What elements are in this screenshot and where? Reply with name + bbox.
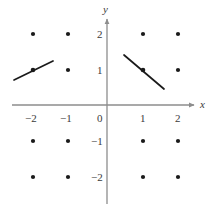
slope-segment-left-point xyxy=(31,68,36,73)
y-axis-label: y xyxy=(103,4,108,15)
lattice-dot xyxy=(176,68,180,72)
lattice-dot xyxy=(66,68,70,72)
x-axis-label: x xyxy=(200,99,205,110)
lattice-dot xyxy=(31,139,35,143)
lattice-dot xyxy=(31,175,35,179)
y-tick-label-neg1: −1 xyxy=(91,136,103,147)
lattice-dot xyxy=(66,175,70,179)
lattice-dot xyxy=(31,32,35,36)
x-tick-label-neg1: −1 xyxy=(60,113,72,124)
x-tick-label-zero: 0 xyxy=(97,113,103,124)
slope-segment-right-point xyxy=(141,68,146,73)
slope-field-figure: −2 −1 0 1 2 2 1 −1 −2 x y xyxy=(0,0,216,211)
x-tick-label-pos2: 2 xyxy=(175,113,181,124)
lattice-dot xyxy=(141,32,145,36)
lattice-dot xyxy=(66,139,70,143)
lattice-dot xyxy=(141,139,145,143)
lattice-dot xyxy=(141,175,145,179)
lattice-dot xyxy=(176,32,180,36)
y-tick-label-pos1: 1 xyxy=(97,65,103,76)
y-tick-label-pos2: 2 xyxy=(97,29,103,40)
x-tick-label-pos1: 1 xyxy=(140,113,146,124)
lattice-dot xyxy=(176,139,180,143)
y-tick-label-neg2: −2 xyxy=(91,172,103,183)
lattice-dot xyxy=(176,175,180,179)
x-tick-label-neg2: −2 xyxy=(25,113,37,124)
plot-canvas xyxy=(0,0,216,211)
lattice-dot xyxy=(66,32,70,36)
